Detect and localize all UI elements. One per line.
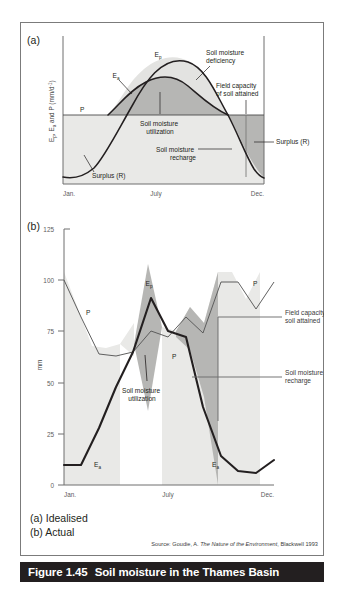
area-surplus-b bbox=[64, 272, 260, 485]
series-label-p-mid-b: P bbox=[172, 353, 177, 360]
y-tick-label-50-b: 50 bbox=[47, 380, 55, 387]
y-tick-label-100-b: 100 bbox=[43, 277, 54, 284]
y-tick-label-125-b: 125 bbox=[43, 226, 54, 233]
y-axis-label-b: mm bbox=[36, 360, 43, 371]
x-tick-label-dec-b: Dec. bbox=[261, 491, 274, 498]
annotation-soil-moisture-recharge-b: Soil moisture recharge bbox=[285, 369, 324, 385]
source-suffix: , Blackwell 1993 bbox=[277, 541, 318, 547]
source-credit: Source: Goudie, A. The Nature of the Env… bbox=[140, 541, 318, 547]
y-tick-label-25-b: 25 bbox=[47, 431, 55, 438]
source-title: The Nature of the Environment bbox=[200, 541, 277, 547]
source-prefix: Source: Goudie, A. bbox=[151, 541, 200, 547]
legend-item-idealised: (a) Idealised bbox=[30, 512, 88, 526]
y-axis-label-a: Ep, Ea and P (mm/d-1) bbox=[48, 80, 57, 142]
x-tick-label-dec-a: Dec. bbox=[251, 190, 264, 197]
y-ticks-b bbox=[58, 280, 64, 485]
figure-title: Soil moisture in the Thames Basin bbox=[95, 566, 280, 578]
legend-item-actual: (b) Actual bbox=[30, 526, 88, 540]
curve-label-ep-a: Ep bbox=[155, 51, 162, 60]
curve-label-ea-a: Ea bbox=[113, 72, 120, 81]
annotation-field-capacity-b: Field capacity of soil attained bbox=[285, 309, 324, 324]
y-tick-label-75-b: 75 bbox=[47, 328, 55, 335]
annotation-soil-moisture-utilization-b: Soil moisture utilization bbox=[122, 387, 162, 402]
annotation-surplus-right-a: Surplus (R) bbox=[276, 138, 309, 146]
x-tick-label-jan-a: Jan. bbox=[63, 190, 75, 197]
x-tick-label-july-b: July bbox=[162, 491, 174, 499]
annotation-soil-moisture-deficiency-a: Soil moisture deficiency bbox=[206, 49, 246, 65]
y-tick-label-0-b: 0 bbox=[50, 482, 54, 489]
annotation-surplus-left-a: Surplus (R) bbox=[92, 172, 125, 180]
series-label-p-left-b: P bbox=[86, 309, 91, 316]
x-tick-label-july-a: July bbox=[150, 190, 162, 198]
figure-number: Figure 1.45 bbox=[28, 566, 88, 578]
figure-container: (a) bbox=[0, 0, 344, 591]
series-label-p-right-b: P bbox=[253, 280, 258, 287]
chart-panel-a-idealised: Ep, Ea and P (mm/d-1) Jan. July Dec. Ep … bbox=[20, 22, 324, 212]
x-tick-label-jan-b: Jan. bbox=[64, 491, 76, 498]
chart-panel-b-actual: 0 25 50 75 100 125 mm Jan. July Dec. P E… bbox=[20, 205, 324, 520]
series-label-p-a: P bbox=[80, 106, 85, 113]
figure-caption-bar: Figure 1.45 Soil moisture in the Thames … bbox=[20, 562, 324, 582]
figure-legend: (a) Idealised (b) Actual bbox=[30, 512, 88, 539]
annotation-field-capacity-a: Field capacity of soil attained bbox=[216, 82, 259, 97]
